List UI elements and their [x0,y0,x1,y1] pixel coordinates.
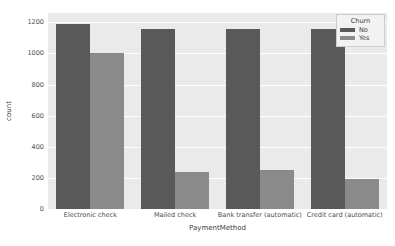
legend: Churn NoYes [336,14,385,47]
bar [141,29,175,209]
y-axis-tick-label: 400 [6,143,44,151]
y-axis-tick-label: 800 [6,81,44,89]
legend-swatch-icon [340,36,355,40]
bar [226,29,260,209]
legend-entry-label: No [359,27,368,34]
bar-group [48,13,133,209]
legend-swatch-icon [340,28,355,32]
x-axis-tick-label: Credit card (automatic) [307,211,383,219]
bar [260,170,294,209]
bar-group [218,13,303,209]
x-axis-tick-label: Electronic check [64,211,117,219]
legend-entry-label: Yes [359,35,370,42]
legend-entry: Yes [340,35,381,42]
bar [175,172,209,209]
y-axis-tick-label: 1000 [6,49,44,57]
bar [311,29,345,209]
legend-entries: NoYes [340,27,381,42]
y-axis-tick-label: 200 [6,174,44,182]
bar-group [133,13,218,209]
bar [345,179,379,209]
legend-entry: No [340,27,381,34]
x-axis-tick-label: Mailed check [154,211,196,219]
legend-title: Churn [340,17,381,25]
x-axis-tick-label: Bank transfer (automatic) [218,211,302,219]
bar [56,24,90,209]
x-axis-ticks: Electronic checkMailed checkBank transfe… [48,211,387,225]
bar [90,53,124,209]
y-axis-tick-label: 1200 [6,18,44,26]
x-axis-label: PaymentMethod [48,224,387,232]
bar-chart-figure: count 020040060080010001200 Electronic c… [0,0,395,246]
y-axis-tick-label: 600 [6,112,44,120]
y-axis-tick-label: 0 [6,205,44,213]
